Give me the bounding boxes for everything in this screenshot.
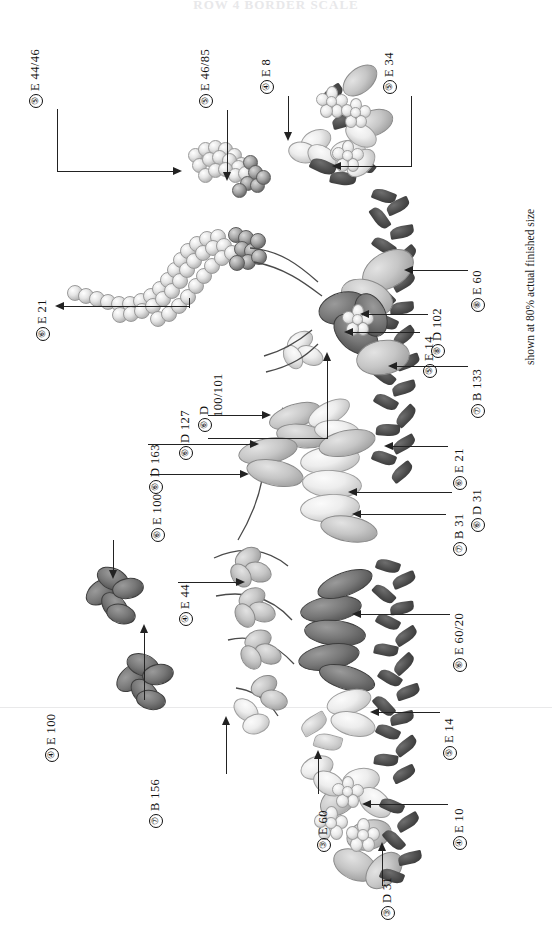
arrowhead-l19 — [140, 624, 148, 633]
label-number-badge: ⑥ — [36, 327, 50, 341]
label-code: E 60 — [316, 810, 330, 835]
label-code: E 21 — [35, 299, 49, 324]
label-e-44-46: ⑤E 44/46 — [28, 49, 43, 108]
arrowhead-l15 — [352, 510, 361, 518]
label-d-100-101: ⑥D 100/101 — [198, 373, 225, 432]
leader-l11 — [208, 438, 328, 439]
label-e-21-left: ⑥E 21 — [35, 299, 50, 341]
label-e-44: ④E 44 — [178, 584, 193, 626]
label-e-34: ⑤E 34 — [382, 52, 397, 94]
label-code: E 60 — [470, 270, 484, 295]
arrowhead-l5 — [55, 302, 64, 310]
arrowhead-l22 — [314, 750, 322, 759]
label-e-8: ④E 8 — [259, 59, 274, 94]
leader-l5-v — [189, 298, 190, 308]
label-code: E 44/46 — [28, 49, 42, 91]
leader-l14 — [356, 492, 452, 493]
leader-l18 — [360, 614, 450, 615]
arrowhead-l16 — [240, 470, 249, 478]
leader-l4-v — [411, 96, 412, 167]
stem-curves — [0, 0, 552, 930]
label-code: D — [197, 406, 211, 415]
arrowhead-l8 — [344, 328, 353, 336]
label-number-badge: ④ — [453, 836, 467, 850]
label-number-badge: ⑤ — [443, 746, 457, 760]
label-number-badge: ⑥ — [453, 476, 467, 490]
arrowhead-l1 — [173, 167, 182, 175]
label-e-60-20: ⑥E 60/20 — [452, 613, 467, 672]
label-e-100-6: ⑥E 100 — [150, 493, 165, 542]
label-code-line2: 100/101 — [212, 373, 225, 417]
arrowhead-l12 — [250, 440, 259, 448]
label-code: E 100 — [44, 713, 58, 745]
arrowhead-l13 — [384, 442, 393, 450]
label-code: E 44 — [178, 584, 192, 609]
arrowhead-l18 — [352, 610, 361, 618]
arrowhead-l2 — [223, 172, 231, 181]
leader-l11-v — [327, 358, 328, 439]
label-number-badge: ⑤ — [423, 364, 437, 378]
label-number-badge: ⑦ — [471, 404, 485, 418]
label-code: E 10 — [452, 808, 466, 833]
leader-l21 — [378, 712, 440, 713]
label-number-badge: ④ — [260, 80, 274, 94]
leader-l5 — [64, 306, 190, 307]
leader-l2 — [227, 110, 228, 174]
small-flower — [346, 818, 378, 850]
label-code: E 8 — [259, 59, 273, 77]
label-code: D 31 — [380, 877, 394, 903]
arrowhead-l10 — [262, 411, 271, 419]
label-number-badge: ⑧ — [471, 298, 485, 312]
leader-l13 — [392, 446, 448, 447]
label-d-127: ⑥D 127 — [178, 410, 193, 460]
leader-l8 — [352, 332, 420, 333]
arrowhead-l9 — [388, 362, 397, 370]
scale-note: shown at 80% actual finished size — [524, 209, 536, 365]
label-number-badge: ⑥ — [453, 658, 467, 672]
arrowhead-l7 — [360, 310, 369, 318]
page-title: ROW 4 BORDER SCALE — [0, 0, 552, 13]
leader-l1-v — [57, 109, 58, 172]
leader-l23 — [370, 804, 448, 805]
arrowhead-l3 — [284, 132, 292, 141]
label-code: E 14 — [442, 718, 456, 743]
leader-l20 — [226, 722, 227, 774]
label-number-badge: ⑥ — [471, 518, 485, 532]
leader-l19 — [144, 630, 145, 700]
label-number-badge: ③ — [381, 906, 395, 920]
label-code: E 60/20 — [452, 613, 466, 655]
label-number-badge: ⑥ — [198, 418, 212, 432]
leader-l15 — [360, 514, 446, 515]
label-b-156: ⑦B 156 — [148, 779, 163, 828]
arrowhead-l24 — [378, 842, 386, 851]
arrowhead-l21 — [370, 708, 379, 716]
arrowhead-l6 — [404, 266, 413, 274]
label-code: D 163 — [148, 444, 162, 477]
label-e-10: ④E 10 — [452, 808, 467, 850]
label-b-133: ⑦B 133 — [470, 369, 485, 418]
label-number-badge: ⑥ — [179, 446, 193, 460]
leader-l1 — [57, 171, 175, 172]
leader-l6 — [412, 270, 468, 271]
label-number-badge: ⑤ — [383, 80, 397, 94]
label-d-31-3: ③D 31 — [380, 877, 395, 920]
label-number-badge: ⑦ — [453, 542, 467, 556]
label-b-31: ⑦B 31 — [452, 513, 467, 556]
label-number-badge: ④ — [179, 612, 193, 626]
leader-l12 — [148, 444, 252, 445]
label-number-badge: ⑦ — [149, 814, 163, 828]
arrowhead-l23 — [362, 800, 371, 808]
arrowhead-l17 — [236, 578, 245, 586]
label-code: B 133 — [470, 369, 484, 401]
leader-l7 — [368, 314, 428, 315]
label-e-14-upper: ⑤E 14 — [422, 336, 437, 378]
leader-l17 — [178, 582, 238, 583]
label-number-badge: ③ — [317, 838, 331, 852]
leader-l16-v — [113, 540, 114, 572]
label-d-31-6: ⑥D 31 — [470, 489, 485, 532]
arrowhead-l20 — [222, 716, 230, 725]
arrowhead-l16b — [109, 570, 117, 579]
label-e-100-4: ④E 100 — [44, 713, 59, 762]
label-code: E 46/85 — [198, 49, 212, 91]
faint-divider — [0, 707, 552, 708]
